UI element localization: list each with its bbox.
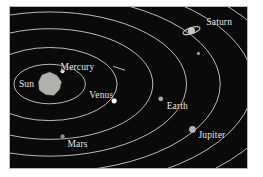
venus-dot [112, 98, 117, 103]
mars-dot [60, 134, 64, 138]
solar-system-figure: SunMercuryVenusEarthMarsJupiterSaturn [0, 0, 263, 177]
venus-orbit [10, 47, 117, 120]
orbit-canvas [10, 7, 247, 168]
jupiter-dot [189, 126, 196, 133]
earth-dot [158, 96, 163, 101]
uranus-dot [197, 52, 200, 55]
saturn-dot [188, 27, 195, 34]
diagram-plate: SunMercuryVenusEarthMarsJupiterSaturn [9, 6, 248, 169]
mars-orbit [10, 12, 187, 156]
mercury-leader-line [113, 66, 125, 70]
mercury-dot [61, 69, 65, 73]
sun-disc [39, 72, 62, 95]
earth-orbit [10, 29, 153, 140]
